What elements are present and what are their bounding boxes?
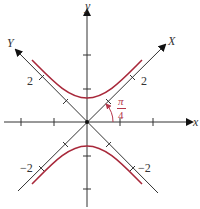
x-axis bbox=[4, 118, 192, 126]
diagram-svg bbox=[0, 0, 200, 209]
tick-label-upper-right: 2 bbox=[141, 75, 147, 87]
x-axis-label: x bbox=[193, 116, 198, 128]
y-axis bbox=[83, 10, 91, 207]
tick-label-upper-left: 2 bbox=[27, 75, 33, 87]
tick-label-lower-left: −2 bbox=[20, 162, 33, 174]
angle-numerator: π bbox=[118, 96, 124, 107]
tick-label-lower-right: −2 bbox=[138, 162, 151, 174]
hyperbola-diagram: y x X Y 2 2 −2 −2 π 4 bbox=[0, 0, 200, 209]
X-axis-label: X bbox=[168, 35, 175, 47]
y-axis-label: y bbox=[85, 0, 90, 12]
angle-denominator: 4 bbox=[118, 110, 124, 121]
origin-point bbox=[85, 120, 89, 124]
angle-arc bbox=[106, 104, 113, 122]
Y-axis-label: Y bbox=[7, 37, 14, 49]
